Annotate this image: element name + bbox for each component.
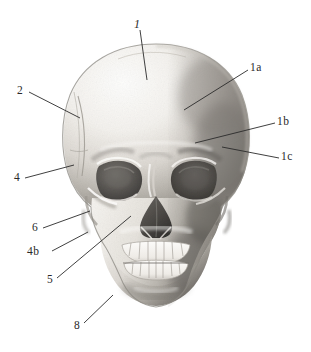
leader-line-4b	[52, 232, 88, 251]
label-1a[interactable]: 1a	[250, 62, 262, 74]
skull-body	[63, 40, 278, 330]
label-2[interactable]: 2	[17, 85, 23, 97]
label-5[interactable]: 5	[47, 274, 53, 286]
leader-line-8	[84, 295, 113, 323]
label-1b[interactable]: 1b	[277, 116, 289, 128]
label-1[interactable]: 1	[134, 18, 140, 30]
label-4[interactable]: 4	[14, 172, 20, 184]
leader-line-4	[25, 165, 74, 178]
figure-page: 11a1b1c2464b58	[0, 0, 311, 352]
label-8[interactable]: 8	[74, 320, 80, 332]
skull-illustration	[0, 0, 311, 352]
label-6[interactable]: 6	[32, 222, 38, 234]
label-4b[interactable]: 4b	[27, 246, 39, 258]
label-1c[interactable]: 1c	[281, 151, 293, 163]
